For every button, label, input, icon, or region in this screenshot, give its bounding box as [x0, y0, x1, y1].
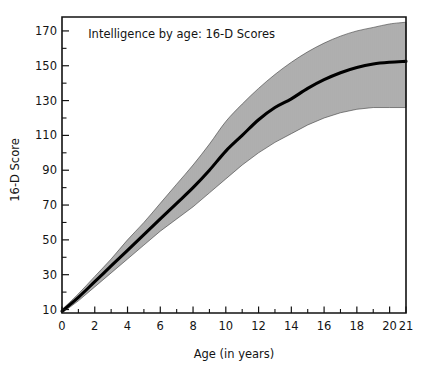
chart-figure: 0246810121416182021 10305070901101301501… — [0, 0, 434, 370]
chart-canvas: 0246810121416182021 10305070901101301501… — [0, 0, 434, 370]
y-tick-label: 10 — [42, 303, 57, 317]
x-tick-label: 20 — [382, 319, 397, 333]
y-tick-label: 170 — [35, 24, 57, 38]
y-tick-label: 110 — [35, 128, 57, 142]
y-tick-label: 50 — [42, 233, 57, 247]
x-axis-title: Age (in years) — [194, 347, 275, 361]
chart-title: Intelligence by age: 16-D Scores — [88, 27, 275, 41]
x-tick-label: 6 — [157, 319, 164, 333]
x-tick-label: 0 — [58, 319, 65, 333]
x-tick-label: 4 — [124, 319, 131, 333]
chart-background — [0, 0, 434, 370]
y-tick-label: 90 — [42, 163, 57, 177]
y-tick-label: 150 — [35, 59, 57, 73]
x-tick-label: 14 — [284, 319, 299, 333]
x-tick-label: 10 — [218, 319, 233, 333]
y-axis-title: 16-D Score — [8, 138, 22, 202]
x-tick-label: 8 — [189, 319, 196, 333]
y-tick-label: 30 — [42, 268, 57, 282]
x-tick-label: 21 — [399, 319, 414, 333]
y-tick-label: 130 — [35, 94, 57, 108]
x-tick-label: 18 — [350, 319, 365, 333]
x-tick-label: 2 — [91, 319, 98, 333]
y-tick-label: 70 — [42, 198, 57, 212]
x-tick-label: 16 — [317, 319, 332, 333]
x-tick-label: 12 — [251, 319, 266, 333]
